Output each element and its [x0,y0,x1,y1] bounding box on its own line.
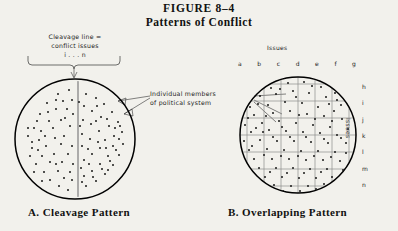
page-title: Patterns of Conflict [0,16,398,29]
column-letter-b: b [257,60,261,67]
issues-label-top: Issues [267,44,287,51]
panel-b-row-letters: h i j k l m n [362,83,368,188]
figure-number: FIGURE 8–4 [0,2,398,15]
row-letter-n: n [362,181,368,188]
panel-a-cleavage-diagram [12,76,138,202]
column-letter-d: d [296,60,300,67]
panel-b-column-letters: a b c d e f g [238,60,356,67]
members-note-line-2: of political system [150,99,211,106]
row-letter-j: j [362,116,368,123]
row-letter-l: l [362,148,368,155]
cleavage-note-line-2: conflict issues [51,42,98,49]
panel-b-overlapping-diagram [236,71,360,197]
figure-title-block: FIGURE 8–4 Patterns of Conflict [0,2,398,29]
panel-a-caption: A. Cleavage Pattern [28,206,130,218]
column-letter-f: f [334,60,336,67]
members-note-line-1: Individual members [150,90,216,97]
row-letter-i: i [362,99,368,106]
cleavage-note-line-1: Cleavage line = [49,33,102,40]
column-letter-g: g [352,60,356,67]
figure-container: FIGURE 8–4 Patterns of Conflict Cleavage… [0,0,398,231]
row-letter-h: h [362,83,368,90]
row-letter-k: k [362,132,368,139]
panel-b-issue-grid [236,71,360,197]
column-letter-a: a [238,60,242,67]
panel-b-member-dots [243,81,349,192]
panel-a-member-dots [27,89,124,191]
panel-b-caption: B. Overlapping Pattern [228,206,347,218]
column-letter-c: c [277,60,280,67]
row-letter-m: m [362,165,368,172]
panel-a-circle [15,79,135,199]
column-letter-e: e [315,60,319,67]
